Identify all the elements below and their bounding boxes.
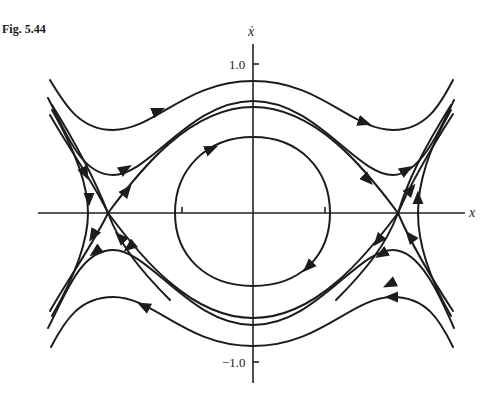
arrow-icon: [206, 148, 213, 151]
y-tick-top-label: 1.0: [229, 57, 245, 72]
trajectory-upper-outer: [50, 80, 453, 130]
arrow-icon: [122, 168, 127, 171]
arrow-icon: [128, 244, 133, 248]
separatrix-upper: [50, 107, 453, 213]
phase-portrait: 1.0 −1.0 x ẋ: [0, 0, 497, 395]
y-axis-label: ẋ: [247, 24, 255, 39]
arrow-icon: [365, 177, 369, 181]
trajectory-lower-outer: [51, 297, 453, 347]
arrow-icon: [388, 282, 394, 285]
trajectory-lower-inner: [48, 250, 454, 328]
arrow-icon: [142, 305, 148, 308]
arrow-icon: [307, 263, 312, 268]
arrow-icon: [94, 250, 98, 253]
separatrix-lower: [50, 213, 453, 318]
arrow-icon: [155, 110, 160, 112]
y-tick-bottom-label: −1.0: [222, 355, 246, 370]
x-axis-label: x: [468, 205, 476, 220]
arrow-icon: [360, 121, 366, 123]
